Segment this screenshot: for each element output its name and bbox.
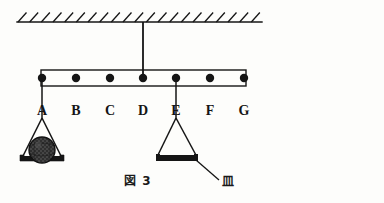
point-label-e: E [166,104,186,118]
hatch-stroke [193,13,202,23]
hatch-stroke [18,13,27,23]
suspension-point-g[interactable] [240,74,248,82]
point-label-b: B [66,104,86,118]
hatch-stroke [251,13,260,23]
beam-suspension-points [38,74,248,82]
weight-ball-group [29,137,55,163]
right-pan-string-left [157,118,176,157]
hatch-stroke [240,13,249,23]
hatch-stroke [111,13,120,23]
ceiling-hatching [18,13,260,23]
right-pan-assembly [156,78,198,161]
right-pan-tray-bar [156,155,198,161]
hatch-stroke [170,13,179,23]
suspension-point-f[interactable] [206,74,214,82]
hatch-stroke [30,13,39,23]
suspension-point-d[interactable] [139,74,147,82]
point-label-f: F [200,104,220,118]
lever-diagram-canvas [0,0,384,203]
point-label-g: G [234,104,254,118]
suspension-point-c[interactable] [106,74,114,82]
hatch-stroke [65,13,74,23]
pan-leader-line [196,160,219,180]
hatch-stroke [205,13,214,23]
hatch-stroke [135,13,144,23]
hatch-stroke [53,13,62,23]
figure-caption: 図 3 [124,175,152,187]
point-label-c: C [100,104,120,118]
hatch-stroke [181,13,190,23]
weight-ball [29,137,55,163]
suspension-point-b[interactable] [72,74,80,82]
hatch-stroke [146,13,155,23]
hatch-stroke [228,13,237,23]
hatch-stroke [123,13,132,23]
pan-annotation-label: 皿 [222,176,234,188]
hatch-stroke [76,13,85,23]
right-pan-tray-lip-left [156,154,160,161]
hatch-stroke [88,13,97,23]
hatch-stroke [100,13,109,23]
right-pan-tray-lip-right [194,154,198,161]
point-label-a: A [32,104,52,118]
right-pan-string-right [176,118,197,157]
figure-lever-balance: ABCDEFG 図 3 皿 [0,0,384,203]
hatch-stroke [41,13,50,23]
hatch-stroke [158,13,167,23]
point-label-d: D [133,104,153,118]
hatch-stroke [216,13,225,23]
